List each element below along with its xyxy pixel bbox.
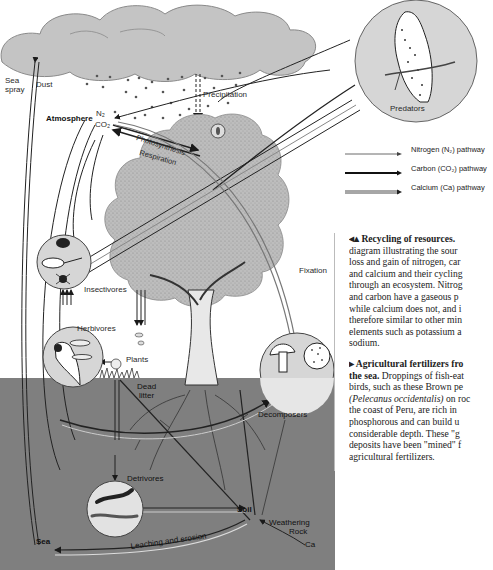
caption-line: birds, such as these Brown pe [349,381,463,392]
label-sea: Sea [36,537,50,546]
leaf [135,333,143,337]
caption-heading-2: ▸ Agricultural fertilizers fro [349,358,463,369]
caption-heading-1: ◂▴ Recycling of resources. [349,233,455,244]
caption-line: considerable depth. These "g [349,428,460,439]
caption-line: through an ecosystem. Nitrog [349,279,463,290]
caption-line: and calcium and their cycling [349,268,462,279]
label-soil: Soil [237,505,252,514]
caption-line: while calcium does not, and i [349,303,461,314]
caption-line: diagram illustrating the sour [349,245,457,256]
legend-label: Carbon (CO₂) pathway [411,164,487,173]
cloud [1,5,316,81]
nodule-inset [211,124,225,138]
caption: ◂▴ Recycling of resources. diagram illus… [334,233,493,471]
legend-label: Nitrogen (N₂) pathway [411,145,485,154]
label-ca: Ca [305,540,315,549]
caption-line: Droppings of fish-eat [379,370,463,381]
grass [100,368,139,378]
insectivores-inset [37,235,91,289]
caption-paragraph-1: ◂▴ Recycling of resources. diagram illus… [349,233,493,349]
label-fixation: Fixation [299,266,327,275]
caption-line: the coast of Peru, are rich in [349,404,457,415]
caption-line: elements such as potassium a [349,326,461,337]
label-dead-litter-1: Dead [137,382,156,391]
detrivores-inset [87,481,143,537]
label-rock: Rock [289,527,307,536]
label-detrivores: Detrivores [127,474,163,483]
tree-canopy [105,114,289,307]
label-dust: Dust [36,80,52,89]
label-precipitation: Precipitation [203,90,247,99]
caption-line: on roc [444,393,471,404]
caption-line: phosphorous and can build u [349,416,459,427]
label-dead-litter-2: litter [139,391,154,400]
label-predators: Predators [390,104,425,113]
legend-item-calcium: Calcium (Ca) pathway [345,183,493,202]
label-sea-spray-1: Sea [5,76,19,85]
label-plants: Plants [126,355,148,364]
label-sea-spray-2: spray [5,85,25,94]
leaf [138,341,144,345]
caption-species: (Pelecanus occidentalis) [349,393,444,404]
label-atmosphere: Atmosphere [46,114,93,123]
label-insectivores: Insectivores [84,285,127,294]
caption-paragraph-2: ▸ Agricultural fertilizers fro the sea. … [349,358,493,462]
label-decomposers: Decomposers [258,410,307,419]
label-n2: N₂ [96,109,105,118]
caption-line: therefore similar to other min [349,314,462,325]
caption-line: sodium. [349,337,380,348]
legend-item-nitrogen: Nitrogen (N₂) pathway [345,145,493,164]
thick-arrow-icon [345,170,403,176]
legend-item-carbon: Carbon (CO₂) pathway [345,164,493,183]
decomposers-inset [260,333,334,415]
plant-seedling [111,359,121,369]
label-herbivores: Herbivores [77,324,116,333]
caption-heading-2-cont: the sea. [349,370,379,381]
caption-line: loss and gain of nitrogen, car [349,256,460,267]
double-arrow-icon [345,189,403,195]
caption-line: and carbon have a gaseous p [349,291,459,302]
caption-line: agricultural fertilizers. [349,451,435,462]
legend: Nitrogen (N₂) pathway Carbon (CO₂) pathw… [345,145,493,202]
thin-arrow-icon [345,151,403,157]
herbivores-inset [43,327,103,387]
label-weathering: Weathering [269,518,310,527]
caption-line: deposits have been "mined" f [349,439,461,450]
legend-label: Calcium (Ca) pathway [411,183,485,192]
label-co2: CO₂ [95,120,110,129]
